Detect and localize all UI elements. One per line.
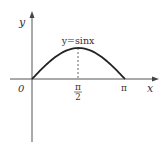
y-axis-arrow-icon xyxy=(30,11,35,18)
x-axis-arrow-icon xyxy=(152,77,159,82)
x-axis-label: x xyxy=(147,82,154,95)
tick-label-pi-over-2-numerator: π xyxy=(75,82,81,92)
function-label: y=sinx xyxy=(61,35,95,46)
sine-chart: y x 0 y=sinx π 2 π xyxy=(0,0,165,151)
tick-label-pi: π xyxy=(121,83,127,93)
tick-label-pi-over-2-denominator: 2 xyxy=(75,92,80,102)
y-axis-label: y xyxy=(18,16,26,29)
origin-label: 0 xyxy=(18,83,25,94)
sine-curve xyxy=(32,48,125,79)
